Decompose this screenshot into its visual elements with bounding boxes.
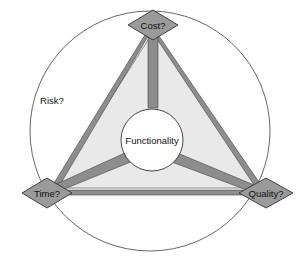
risk-label: Risk?: [40, 95, 64, 106]
trade-off-diagram: Functionality Risk? Cost? Time? Quality?: [0, 0, 302, 266]
time-label: Time?: [34, 188, 60, 199]
quality-label: Quality?: [249, 188, 284, 199]
functionality-label: Functionality: [125, 135, 179, 146]
node-cost[interactable]: Cost?: [128, 10, 178, 40]
time-quality-edge: [54, 190, 259, 195]
cost-label: Cost?: [141, 20, 166, 31]
center-cost-spoke: [148, 34, 158, 108]
diagram-canvas: Functionality Risk? Cost? Time? Quality?: [0, 0, 302, 266]
